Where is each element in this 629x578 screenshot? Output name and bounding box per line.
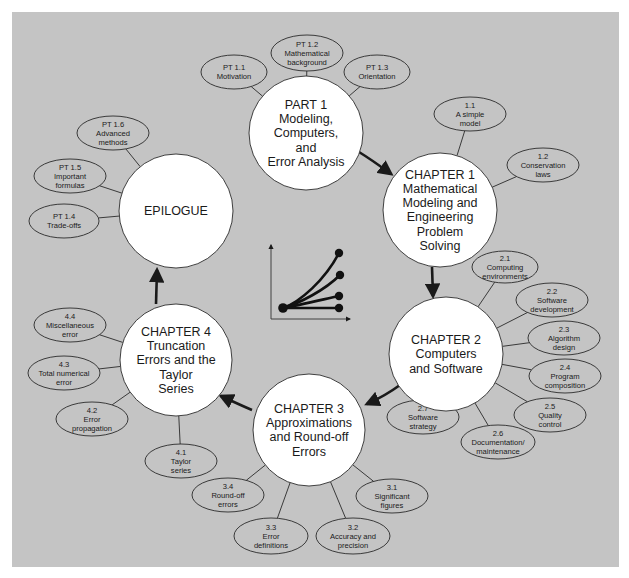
topic-node: 2.2Softwaredevelopment bbox=[516, 283, 588, 317]
topic-label: 2.3 bbox=[559, 325, 570, 334]
topic-node: 1.1A simplemodel bbox=[434, 97, 506, 131]
topic-label: Documentation/ bbox=[471, 438, 525, 447]
topic-label: methods bbox=[98, 138, 127, 147]
topic-node: 2.1Computingenvironments bbox=[472, 251, 538, 283]
main-node-label: Solving bbox=[420, 239, 461, 253]
main-node-label: Engineering bbox=[407, 210, 474, 224]
topic-node: 1.2Conservationlaws bbox=[507, 148, 579, 182]
main-node-label: Taylor bbox=[159, 368, 192, 382]
topic-label: composition bbox=[545, 381, 586, 390]
topic-label: 3.2 bbox=[348, 523, 359, 532]
topic-label: Conservation bbox=[521, 161, 566, 170]
topic-label: 4.3 bbox=[59, 360, 70, 369]
curve-end-dot bbox=[335, 304, 343, 312]
main-node-label: Computers, bbox=[274, 126, 339, 140]
diagram-canvas: PT 1.1MotivationPT 1.2Mathematicalbackgr… bbox=[0, 0, 629, 578]
main-node-label: Problem bbox=[417, 225, 464, 239]
main-node-label: Error Analysis bbox=[267, 155, 344, 169]
main-node-label: Mathematical bbox=[403, 182, 477, 196]
topic-node: PT 1.6Advancedmethods bbox=[77, 116, 149, 150]
topic-node: 2.4Programcomposition bbox=[529, 359, 601, 393]
flow-arrow-ch1-to-ch2 bbox=[432, 267, 433, 296]
topic-label: environments bbox=[482, 272, 528, 281]
main-node-label: and bbox=[296, 141, 317, 155]
main-node-ch2: CHAPTER 2Computersand Software bbox=[389, 297, 503, 411]
topic-node: 2.6Documentation/maintenance bbox=[461, 425, 535, 459]
curve-end-dot bbox=[335, 249, 343, 257]
main-node-label: Truncation bbox=[147, 339, 206, 353]
topic-label: maintenance bbox=[476, 447, 519, 456]
topic-label: Trade-offs bbox=[47, 221, 81, 230]
topic-label: 3.1 bbox=[387, 483, 398, 492]
topic-label: Total numerical bbox=[38, 369, 89, 378]
main-node-label: Modeling, bbox=[279, 112, 333, 126]
topic-label: Miscellaneous bbox=[46, 321, 94, 330]
topic-node: 4.2Errorpropagation bbox=[56, 402, 128, 436]
main-node-label: CHAPTER 1 bbox=[405, 168, 475, 182]
topic-node: 4.1Taylorseries bbox=[145, 444, 217, 478]
topic-label: Program bbox=[550, 372, 579, 381]
topic-label: Error bbox=[84, 415, 101, 424]
main-node-label: Modeling and bbox=[402, 196, 477, 210]
topic-label: Computing bbox=[487, 263, 524, 272]
topic-node: 2.5Qualitycontrol bbox=[514, 398, 586, 432]
topic-label: figures bbox=[381, 501, 404, 510]
main-node-label: EPILOGUE bbox=[144, 204, 208, 218]
main-node-label: Approximations bbox=[266, 416, 352, 430]
topic-label: 1.2 bbox=[538, 152, 549, 161]
topic-label: errors bbox=[218, 500, 238, 509]
main-node-label: Errors bbox=[292, 445, 326, 459]
topic-label: Round-off bbox=[211, 491, 245, 500]
topic-label: formulas bbox=[55, 181, 84, 190]
topic-node: 3.4Round-offerrors bbox=[192, 478, 264, 512]
topic-label: 3.4 bbox=[223, 482, 234, 491]
main-node-part1: PART 1Modeling,Computers,andError Analys… bbox=[249, 76, 363, 190]
topic-label: Important bbox=[54, 172, 87, 181]
flow-arrow-ch4-to-epilogue bbox=[156, 270, 157, 304]
topic-node: PT 1.3Orientation bbox=[344, 55, 410, 89]
topic-label: series bbox=[171, 466, 191, 475]
topic-label: Motivation bbox=[217, 72, 252, 81]
topic-label: A simple bbox=[456, 110, 485, 119]
main-node-ch4: CHAPTER 4TruncationErrors and theTaylorS… bbox=[120, 304, 232, 416]
topic-node: PT 1.4Trade-offs bbox=[29, 204, 99, 238]
topic-node: 3.2Accuracy andprecision bbox=[316, 518, 390, 554]
topic-node: 4.4Miscellaneouserror bbox=[34, 308, 106, 342]
topic-label: laws bbox=[535, 170, 550, 179]
curve-end-dot bbox=[335, 292, 343, 300]
topic-label: development bbox=[530, 305, 574, 314]
main-node-label: CHAPTER 3 bbox=[274, 402, 344, 416]
main-node-label: and Software bbox=[409, 362, 483, 376]
main-node-label: CHAPTER 4 bbox=[141, 325, 211, 339]
main-node-ch3: CHAPTER 3Approximationsand Round-offErro… bbox=[253, 374, 365, 486]
topic-label: Mathematical bbox=[284, 49, 329, 58]
topic-label: precision bbox=[338, 541, 368, 550]
course-roadmap-diagram: PT 1.1MotivationPT 1.2Mathematicalbackgr… bbox=[0, 0, 629, 578]
topic-label: 2.1 bbox=[500, 254, 511, 263]
topic-node: 3.1Significantfigures bbox=[356, 479, 428, 513]
topic-label: PT 1.3 bbox=[366, 63, 388, 72]
topic-label: design bbox=[553, 343, 575, 352]
topic-label: error bbox=[62, 330, 79, 339]
topic-label: PT 1.2 bbox=[296, 40, 318, 49]
topic-label: PT 1.5 bbox=[59, 163, 81, 172]
topic-label: PT 1.1 bbox=[223, 63, 245, 72]
topic-label: strategy bbox=[409, 422, 436, 431]
topic-label: Accuracy and bbox=[330, 532, 376, 541]
topic-node: 2.3Algorithmdesign bbox=[528, 321, 600, 355]
topic-label: 3.3 bbox=[266, 523, 277, 532]
main-node-label: Computers bbox=[415, 347, 476, 361]
topic-node: 3.3Errordefinitions bbox=[234, 518, 308, 554]
topic-label: propagation bbox=[72, 424, 112, 433]
topic-label: PT 1.6 bbox=[102, 120, 124, 129]
topic-label: definitions bbox=[254, 541, 288, 550]
main-node-label: PART 1 bbox=[285, 98, 327, 112]
topic-node: PT 1.5Importantformulas bbox=[34, 159, 106, 193]
origin-dot bbox=[278, 303, 288, 313]
topic-label: 2.2 bbox=[547, 287, 558, 296]
main-node-epilogue: EPILOGUE bbox=[119, 154, 233, 268]
topic-node: PT 1.2Mathematicalbackground bbox=[271, 35, 343, 71]
topic-label: model bbox=[460, 119, 481, 128]
topic-label: Significant bbox=[374, 492, 410, 501]
topic-label: Quality bbox=[538, 411, 562, 420]
